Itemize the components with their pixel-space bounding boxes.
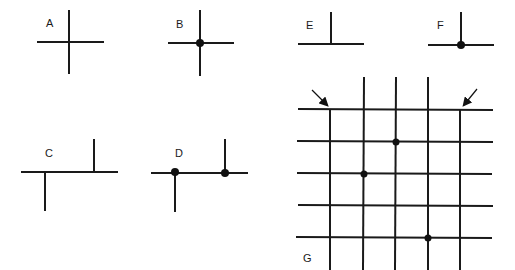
- panel-d-label: D: [175, 147, 183, 159]
- panel-c-label: C: [45, 147, 53, 159]
- panel-a-label: A: [46, 17, 54, 29]
- panel-b-label: B: [176, 18, 183, 30]
- panel-f: F: [428, 12, 494, 49]
- panel-g: G: [296, 77, 493, 270]
- arrow-left-top-icon: [312, 90, 327, 105]
- junction-dot: [457, 41, 465, 49]
- panel-f-label: F: [437, 19, 444, 31]
- arrow-right-top-icon: [464, 89, 477, 105]
- panel-a: A: [37, 10, 104, 74]
- junction-dot: [425, 235, 432, 242]
- diagram-canvas: A B E F C D G: [0, 0, 515, 270]
- junction-dot: [393, 139, 400, 146]
- panel-e-label: E: [306, 19, 313, 31]
- junction-dot: [221, 169, 229, 177]
- panel-g-label: G: [303, 252, 312, 264]
- panel-e: E: [298, 12, 364, 44]
- panel-c: C: [21, 139, 118, 211]
- junction-dot: [196, 39, 204, 47]
- junction-dot: [171, 168, 179, 176]
- panel-d: D: [151, 139, 248, 212]
- junction-dot: [361, 171, 368, 178]
- panel-b: B: [168, 10, 234, 76]
